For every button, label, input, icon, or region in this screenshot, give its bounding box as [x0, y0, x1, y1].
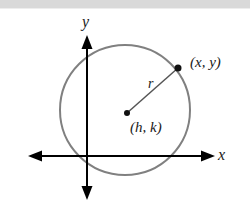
center-point-label: (h, k)	[130, 120, 162, 135]
diagram-canvas	[0, 0, 250, 205]
x-axis-left-arrow-icon	[28, 151, 42, 162]
radius-label: r	[148, 77, 153, 91]
circle-point-label: (x, y)	[190, 55, 221, 70]
y-axis-down-arrow-icon	[82, 186, 93, 200]
center-point-dot	[124, 110, 130, 116]
circle-diagram-figure: y x (x, y) (h, k) r	[0, 0, 250, 205]
circle-point-dot	[175, 65, 182, 72]
y-axis-label: y	[82, 14, 89, 30]
x-axis-label: x	[218, 147, 225, 163]
x-axis-right-arrow-icon	[201, 151, 215, 162]
y-axis-up-arrow-icon	[82, 35, 93, 49]
